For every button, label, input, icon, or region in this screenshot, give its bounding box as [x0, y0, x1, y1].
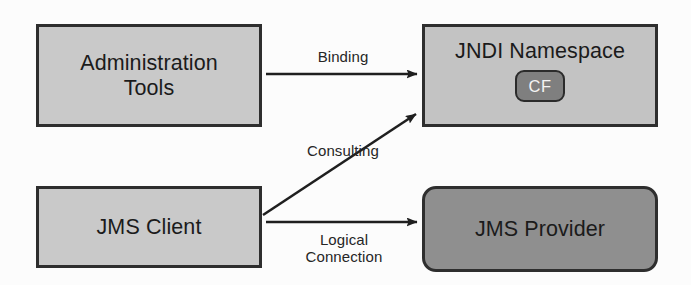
- diagram-canvas: Administration Tools JNDI Namespace CF J…: [0, 0, 691, 285]
- node-administration-tools-label: Administration Tools: [80, 51, 218, 99]
- edge-label-binding: Binding: [296, 48, 390, 65]
- connection-factory-badge-label: CF: [529, 77, 552, 95]
- edge-consulting-arrow: [263, 114, 416, 215]
- edge-label-logical-connection: Logical Connection: [285, 231, 403, 265]
- node-administration-tools[interactable]: Administration Tools: [36, 24, 262, 127]
- connection-factory-badge[interactable]: CF: [515, 70, 565, 102]
- node-jndi-namespace[interactable]: JNDI Namespace CF: [422, 24, 658, 127]
- node-jms-client[interactable]: JMS Client: [36, 186, 262, 268]
- node-jndi-namespace-label: JNDI Namespace: [455, 39, 625, 63]
- node-jms-provider-label: JMS Provider: [475, 217, 605, 241]
- node-jms-provider[interactable]: JMS Provider: [422, 186, 658, 272]
- edge-label-consulting: Consulting: [289, 142, 397, 159]
- node-jms-client-label: JMS Client: [97, 215, 202, 239]
